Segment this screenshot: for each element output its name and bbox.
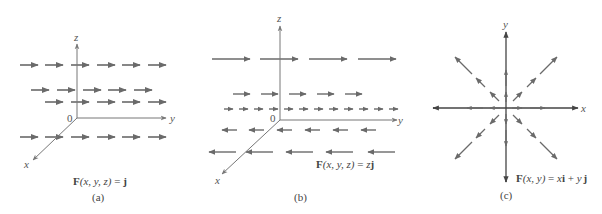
panel-tag-b: (b) <box>294 191 307 204</box>
x-axis <box>222 120 280 174</box>
caption-args: (x, y, z) <box>323 158 355 171</box>
x-axis-label: x <box>214 174 220 186</box>
x-axis <box>33 118 77 160</box>
z-axis-label: z <box>276 12 282 24</box>
y-axis-label: y <box>169 112 175 124</box>
panel-tag-c: (c) <box>500 189 513 202</box>
caption-eq: = <box>355 158 367 170</box>
caption-a: F(x, y, z) = j <box>73 175 127 188</box>
caption-plus: + <box>565 172 577 184</box>
field-arrows-b <box>209 59 398 152</box>
caption-y: y <box>576 172 582 184</box>
panel-b: z y x 0 F(x, y, z) = zj (b) <box>209 12 403 204</box>
y-axis-label: y <box>397 114 403 126</box>
caption-b: F(x, y, z) = zj <box>316 158 374 171</box>
caption-c: F(x, y) = xi + yj <box>516 172 587 185</box>
caption-args: (x, y, z) <box>80 175 112 188</box>
caption-rhs: j <box>370 158 375 170</box>
origin-label: 0 <box>270 112 276 124</box>
panel-tag-a: (a) <box>92 191 105 204</box>
vector-field-figure: z y x 0 F(x, y, z) = j (a) <box>0 0 602 214</box>
caption-args: (x, y) <box>523 172 546 185</box>
z-axis-label: z <box>73 31 79 43</box>
x-axis-label: x <box>580 102 586 114</box>
y-axis-label: y <box>502 18 508 30</box>
panel-c: y x F(x, y) = xi + yj (c) <box>433 18 587 202</box>
panel-a: z y x 0 F(x, y, z) = j (a) <box>20 31 175 204</box>
field-arrows-a <box>20 65 166 137</box>
origin-label: 0 <box>67 112 73 124</box>
x-axis-label: x <box>23 158 29 170</box>
caption-rhs: j <box>122 175 127 187</box>
caption-eq: = <box>545 172 557 184</box>
axes-c <box>433 32 578 182</box>
caption-j: j <box>583 172 588 184</box>
caption-eq: = <box>112 175 124 187</box>
